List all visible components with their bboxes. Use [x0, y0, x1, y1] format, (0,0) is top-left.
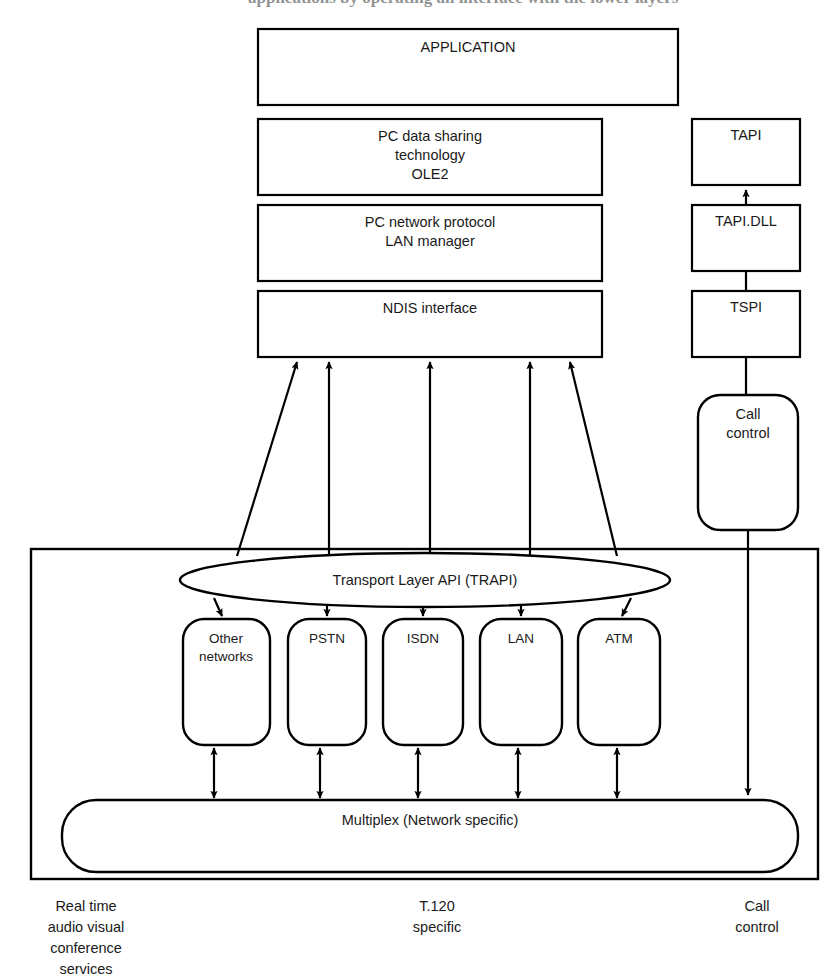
caption-left-line4: services [59, 961, 112, 977]
call-control-label-line2: control [726, 425, 770, 441]
tspi-label: TSPI [730, 299, 762, 315]
network-label-isdn-line1: ISDN [407, 631, 439, 646]
architecture-diagram: APPLICATION PC data sharing technology O… [0, 0, 839, 980]
arrow-trapi-to-ndis-5 [570, 362, 617, 556]
network-protocol-label-line1: PC network protocol [365, 214, 496, 230]
data-sharing-label-line1: PC data sharing [378, 128, 482, 144]
caption-right: Call control [735, 898, 779, 935]
network-box-lan[interactable]: LAN [480, 619, 562, 745]
network-box-pstn[interactable]: PSTN [288, 619, 366, 745]
caption-left-line2: audio visual [48, 919, 125, 935]
caption-center: T.120 specific [413, 898, 461, 935]
arrow-trapi-to-atm [622, 598, 631, 616]
application-label: APPLICATION [421, 39, 516, 55]
diagram-canvas: applications by operating an interface w… [0, 0, 839, 980]
trapi-label: Transport Layer API (TRAPI) [333, 572, 518, 588]
network-box-atm[interactable]: ATM [578, 619, 660, 745]
ndis-interface-label: NDIS interface [383, 300, 477, 316]
caption-left-line3: conference [50, 940, 122, 956]
network-label-pstn-line1: PSTN [309, 631, 345, 646]
tapi-dll-label: TAPI.DLL [715, 213, 777, 229]
data-sharing-label-line3: OLE2 [411, 166, 448, 182]
arrow-trapi-to-other-networks [214, 598, 222, 616]
call-control-label-line1: Call [736, 406, 761, 422]
caption-right-line2: control [735, 919, 779, 935]
network-protocol-label-line2: LAN manager [385, 233, 475, 249]
caption-left-line1: Real time [55, 898, 116, 914]
caption-center-line2: specific [413, 919, 461, 935]
arrow-trapi-to-ndis-1 [237, 362, 297, 556]
caption-center-line1: T.120 [419, 898, 454, 914]
network-label-other-networks-line1: Other [209, 631, 243, 646]
tapi-label: TAPI [730, 127, 761, 143]
caption-right-line1: Call [745, 898, 770, 914]
network-label-lan-line1: LAN [508, 631, 534, 646]
caption-left: Real time audio visual conference servic… [48, 898, 125, 977]
network-label-atm-line1: ATM [605, 631, 633, 646]
multiplex-label: Multiplex (Network specific) [342, 812, 518, 828]
data-sharing-label-line2: technology [395, 147, 466, 163]
multiplex-box[interactable] [62, 800, 798, 872]
network-label-other-networks-line2: networks [199, 649, 253, 664]
network-box-other-networks[interactable]: Other networks [183, 619, 270, 745]
network-box-isdn[interactable]: ISDN [383, 619, 463, 745]
